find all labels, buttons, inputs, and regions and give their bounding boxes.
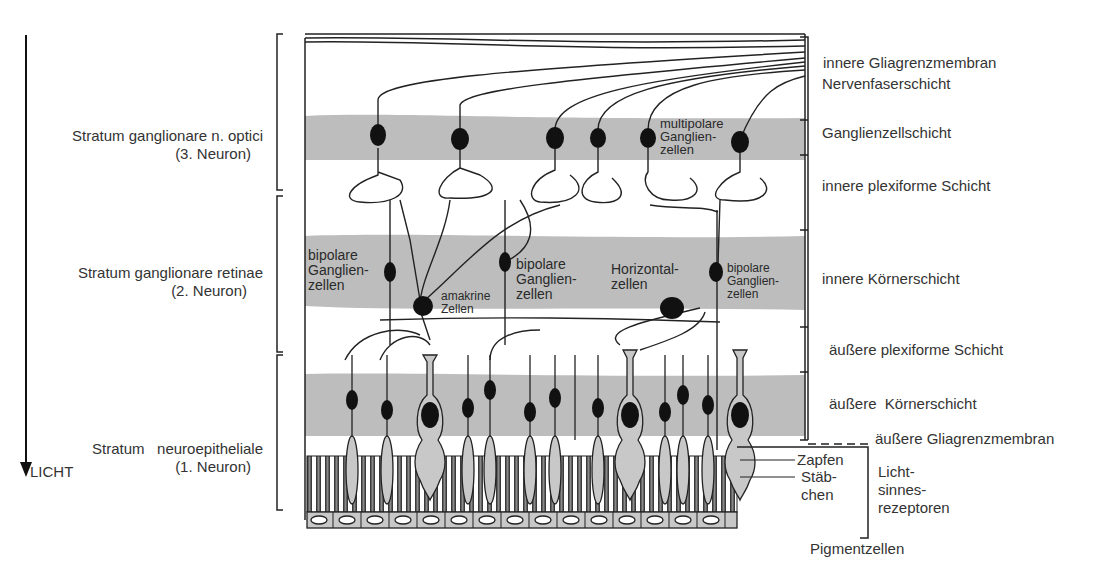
- light-arrow-icon: [20, 35, 32, 477]
- multipolar-ganglion-cells-label: multipolare Ganglien- zellen: [660, 117, 724, 156]
- rods-label: Stäb- chen: [801, 468, 837, 504]
- bipolar-cells-middle-label: bipolare Ganglien- zellen: [516, 257, 577, 302]
- horizontal-cells-label: Horizontal- zellen: [611, 262, 679, 292]
- stratum-neuroepitheliale-label: Stratum neuroepitheliale (1. Neuron): [30, 440, 263, 476]
- amacrine-cells-label: amakrine Zellen: [441, 290, 490, 316]
- pigment-cells-label: Pigmentzellen: [810, 540, 904, 558]
- inner-nuclear-layer-label: innere Körnerschicht: [822, 270, 960, 288]
- bipolar-cells-right-label: bipolare Ganglien- zellen: [727, 262, 779, 301]
- stratum-ganglionare-retinae-label: Stratum ganglionare retinae (2. Neuron): [30, 264, 263, 300]
- inner-plexiform-layer-label: innere plexiforme Schicht: [822, 177, 990, 195]
- outer-nuclear-layer-label: äußere Körnerschicht: [829, 395, 977, 413]
- stratum-ganglionare-optici-label: Stratum ganglionare n. optici (3. Neuron…: [30, 127, 263, 163]
- bipolar-cells-left-label: bipolare Ganglien- zellen: [308, 248, 369, 293]
- cones-label: Zapfen: [797, 451, 844, 469]
- nerve-fiber-layer-label: Nervenfaserschicht: [822, 75, 950, 93]
- outer-limiting-membrane-label: äußere Gliagrenzmembran: [875, 430, 1054, 448]
- inner-limiting-membrane-label: innere Gliagrenzmembran: [823, 54, 996, 72]
- pigment-cells: [307, 512, 737, 528]
- ganglion-cell-layer-label: Ganglienzellschicht: [822, 124, 951, 142]
- outer-plexiform-layer-label: äußere plexiforme Schicht: [829, 341, 1003, 359]
- photoreceptors-label: Licht- sinnes- rezeptoren: [878, 463, 950, 517]
- left-brackets: [277, 34, 283, 510]
